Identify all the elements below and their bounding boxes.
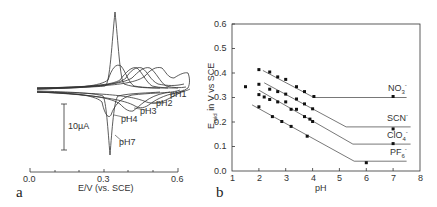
- x-tick-6: 6: [364, 173, 369, 183]
- x-tick-0-6: 0.6: [171, 174, 184, 184]
- label-ph4: pH4: [121, 114, 138, 124]
- label-ph2: pH2: [156, 98, 173, 108]
- x-tick-0: 0.0: [23, 174, 36, 184]
- emid-plot: [220, 0, 437, 207]
- x-tick-8: 8: [418, 173, 423, 183]
- x-tick-2: 2: [257, 173, 262, 183]
- label-ph3: pH3: [140, 106, 157, 116]
- panel-b-emid-vs-ph: 0.6 0.5 0.4 0.3 0.2 0.1 0.0 1 2 3 4 5 6 …: [220, 0, 437, 207]
- x-axis-label: pH: [315, 183, 327, 193]
- x-axis-label: E/V (vs. SCE): [78, 183, 134, 193]
- scale-bar-label: 10µA: [68, 121, 89, 131]
- x-tick-7: 7: [391, 173, 396, 183]
- panel-a-voltammogram: pH1 pH2 pH3 pH4 pH7 10µA 0.0 0.3 0.6 E/V…: [0, 0, 220, 207]
- x-tick-1: 1: [230, 173, 235, 183]
- x-tick-3: 3: [284, 173, 289, 183]
- x-tick-5: 5: [337, 173, 342, 183]
- y-tick-0-6: 0.6: [214, 19, 227, 29]
- y-tick-0-0: 0.0: [214, 166, 227, 176]
- panel-letter-a: a: [16, 184, 23, 201]
- legend-no3: NO3-: [388, 82, 407, 95]
- legend-pf6: PF6-: [390, 146, 407, 159]
- legend-scn: SCN-: [387, 112, 408, 123]
- label-ph7: pH7: [119, 137, 136, 147]
- x-tick-4: 4: [311, 173, 316, 183]
- panel-letter-b: b: [216, 184, 224, 201]
- legend-clo4: ClO4-: [387, 129, 408, 142]
- y-axis-label: Emid in V vs SCE: [206, 36, 218, 156]
